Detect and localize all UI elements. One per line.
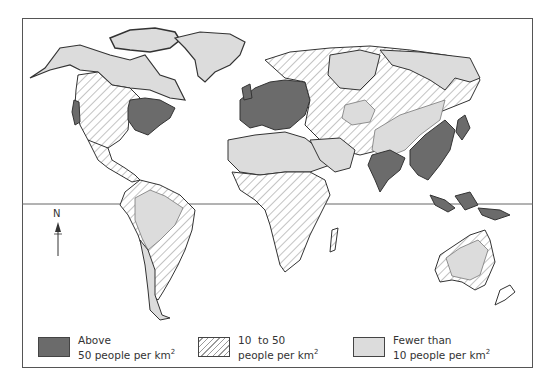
north-arrow-icon [54,222,62,256]
region-central-america [88,140,140,182]
legend-swatch-medium [198,337,230,357]
region-new-zealand [495,285,515,305]
legend-item-high: Above 50 people per km2 [38,334,175,361]
region-arctic-islands [110,28,180,52]
legend-swatch-high [38,337,70,357]
legend-item-medium: 10 to 50 people per km2 [198,334,319,361]
region-japan [456,115,470,140]
region-south-asia [368,150,405,192]
region-california [72,100,80,125]
world-map [0,0,550,380]
region-madagascar [330,228,338,252]
region-british-isles [242,84,252,100]
region-southeast-asia [430,192,510,220]
legend-high-line1: Above [78,334,175,346]
region-greenland [175,32,245,82]
legend-swatch-low [353,337,385,357]
legend-medium-line2: people per km [238,349,314,361]
region-sahara [228,132,330,175]
region-sub-saharan-africa [232,172,330,272]
legend-low-line1: Fewer than [393,334,490,346]
north-arrow-label: N [53,208,60,219]
legend-medium-line1: 10 to 50 [238,334,319,346]
legend-item-low: Fewer than 10 people per km2 [353,334,490,361]
region-eastern-north-america [128,98,175,135]
legend-low-line2: 10 people per km [393,349,486,361]
legend-high-line2: 50 people per km [78,349,171,361]
